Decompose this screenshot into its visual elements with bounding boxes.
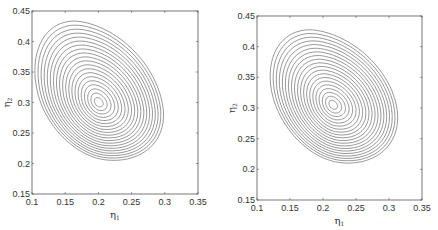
x-tick-label: 0.2 bbox=[317, 203, 330, 213]
axes-frame bbox=[257, 16, 422, 200]
x-tick-label: 0.25 bbox=[347, 203, 365, 213]
x-tick-label: 0.15 bbox=[281, 203, 299, 213]
y-tick-label: 0.3 bbox=[242, 103, 255, 113]
x-axis-label: η1 bbox=[335, 215, 345, 227]
x-axis-label: η1 bbox=[110, 209, 120, 221]
y-axis-label: η2 bbox=[1, 97, 13, 107]
x-tick-label: 0.15 bbox=[56, 197, 74, 207]
x-tick-label: 0.3 bbox=[159, 197, 172, 207]
left-contour-plot: 0.10.150.20.250.30.350.150.20.250.30.350… bbox=[1, 6, 207, 221]
x-tick-label: 0.3 bbox=[383, 203, 396, 213]
y-tick-label: 0.45 bbox=[237, 11, 255, 21]
y-tick-label: 0.2 bbox=[17, 159, 30, 169]
y-tick-label: 0.2 bbox=[242, 164, 255, 174]
x-tick-label: 0.2 bbox=[92, 197, 105, 207]
right-contour-plot: 0.10.150.20.250.30.350.150.20.250.30.350… bbox=[226, 11, 431, 227]
x-tick-label: 0.35 bbox=[189, 197, 207, 207]
y-tick-label: 0.25 bbox=[12, 128, 30, 138]
y-axis-label: η2 bbox=[226, 103, 238, 113]
x-tick-label: 0.35 bbox=[413, 203, 431, 213]
y-tick-label: 0.45 bbox=[12, 6, 30, 16]
y-tick-label: 0.15 bbox=[237, 195, 255, 205]
y-tick-label: 0.15 bbox=[12, 189, 30, 199]
y-tick-label: 0.35 bbox=[237, 72, 255, 82]
y-tick-label: 0.4 bbox=[242, 42, 255, 52]
y-tick-label: 0.3 bbox=[17, 98, 30, 108]
y-tick-label: 0.25 bbox=[237, 134, 255, 144]
y-tick-label: 0.35 bbox=[12, 67, 30, 77]
x-tick-label: 0.25 bbox=[123, 197, 141, 207]
y-tick-label: 0.4 bbox=[17, 37, 30, 47]
contour-figure: 0.10.150.20.250.30.350.150.20.250.30.350… bbox=[0, 0, 438, 230]
